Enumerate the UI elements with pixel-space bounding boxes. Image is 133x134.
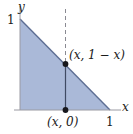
y-axis-tick-label-1: 1 xyxy=(7,14,15,26)
lower-point-marker xyxy=(63,107,69,113)
y-axis-label: y xyxy=(18,1,25,13)
x-axis-tick-label-1: 1 xyxy=(106,116,114,128)
plot-svg xyxy=(0,0,133,134)
x-axis-label: x xyxy=(122,101,129,113)
lower-point-label: (x, 0) xyxy=(47,116,78,128)
upper-point-marker xyxy=(63,61,69,67)
figure-canvas: y x 1 1 (x, 1 − x) (x, 0) xyxy=(0,0,133,134)
upper-point-label: (x, 1 − x) xyxy=(69,49,125,61)
